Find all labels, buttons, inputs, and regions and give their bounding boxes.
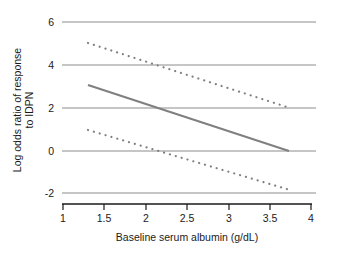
x-axis: [62, 204, 312, 210]
chart-plot-area: 6 4 2 0 -2 1 1.5 2 2.5 3: [0, 0, 343, 255]
series-lower-confidence-limit: [88, 130, 290, 190]
y-ticklabel--2: -2: [45, 187, 54, 199]
x-axis-title: Baseline serum albumin (g/dL): [116, 231, 258, 243]
x-ticklabel-2.5: 2.5: [180, 212, 195, 224]
y-axis-ticklabels: 6 4 2 0 -2: [45, 16, 55, 199]
x-ticklabel-3.5: 3.5: [263, 212, 278, 224]
series-upper-confidence-limit: [88, 43, 290, 108]
x-axis-ticklabels: 1 1.5 2 2.5 3 3.5 4: [60, 212, 314, 224]
x-ticklabel-1.5: 1.5: [97, 212, 112, 224]
chart-figure: 6 4 2 0 -2 1 1.5 2 2.5 3: [0, 0, 343, 255]
x-ticklabel-2: 2: [143, 212, 149, 224]
y-ticklabel-2: 2: [48, 102, 54, 114]
x-ticklabel-1: 1: [60, 212, 66, 224]
y-axis-title-line2: to IDPN: [23, 92, 35, 129]
y-axis-title-line1: Log odds ratio of response: [11, 48, 23, 172]
x-ticklabel-4: 4: [308, 212, 314, 224]
y-ticklabel-0: 0: [48, 145, 54, 157]
x-ticklabel-3: 3: [226, 212, 232, 224]
y-ticklabel-6: 6: [48, 16, 54, 28]
series-fitted-log-odds-ratio: [88, 85, 289, 151]
y-ticklabel-4: 4: [48, 59, 54, 71]
